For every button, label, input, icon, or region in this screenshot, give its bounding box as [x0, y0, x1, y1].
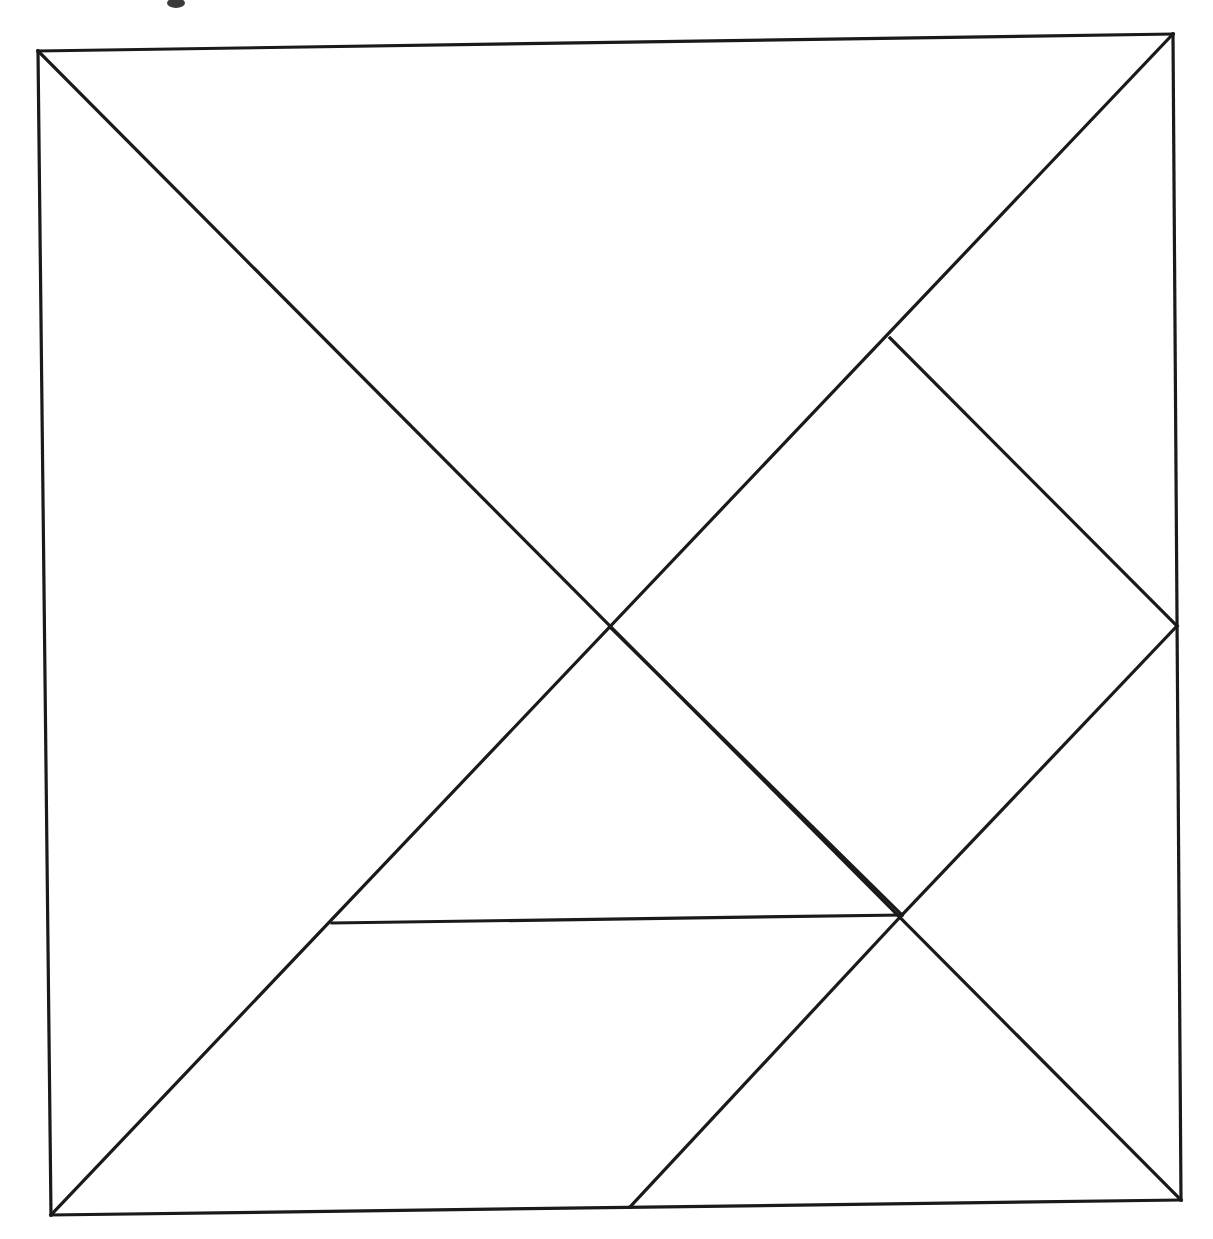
tangram-figure-root: [0, 0, 1213, 1239]
tangram-diagram: [0, 0, 1213, 1239]
